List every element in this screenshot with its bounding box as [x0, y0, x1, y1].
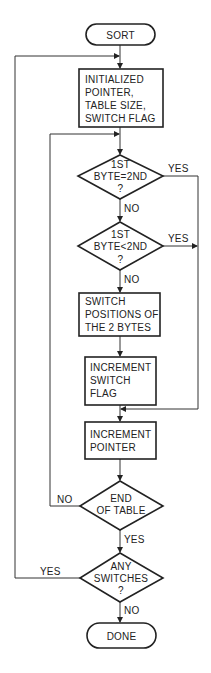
- end-label: DONE: [107, 631, 137, 642]
- end-line-2: OF TABLE: [96, 505, 145, 516]
- any-line-3: ?: [118, 585, 124, 596]
- switch-line-3: THE 2 BYTES: [85, 322, 151, 333]
- decision-end-of-table: END OF TABLE: [80, 481, 163, 530]
- flowchart: SORT INITIALIZED POINTER, TABLE SIZE, SW…: [0, 0, 211, 673]
- end-terminal: DONE: [87, 623, 156, 648]
- switch-line-1: SWITCH: [85, 296, 126, 307]
- incptr-line-1: INCREMENT: [90, 429, 151, 440]
- equal-line-3: ?: [118, 183, 124, 194]
- init-line-3: TABLE SIZE,: [85, 100, 146, 111]
- less-line-3: ?: [118, 254, 124, 265]
- equal-no-label: NO: [124, 203, 139, 214]
- start-label: SORT: [106, 30, 134, 41]
- less-yes-label: YES: [168, 233, 189, 244]
- switch-line-2: POSITIONS OF: [85, 309, 159, 320]
- end-yes-label: YES: [124, 534, 145, 545]
- any-no-label: NO: [124, 605, 139, 616]
- decision-byte-less: 1ST BYTE<2ND ?: [78, 222, 163, 270]
- equal-line-2: BYTE=2ND: [94, 171, 148, 182]
- decision-byte-equal: 1ST BYTE=2ND ?: [78, 155, 163, 199]
- incflag-line-2: SWITCH: [90, 375, 131, 386]
- incflag-line-1: INCREMENT: [90, 362, 151, 373]
- decision-any-switches: ANY SWITCHES ?: [80, 553, 163, 602]
- less-line-1: 1ST: [111, 229, 130, 240]
- equal-line-1: 1ST: [111, 159, 130, 170]
- less-line-2: BYTE<2ND: [94, 241, 148, 252]
- init-process-box: INITIALIZED POINTER, TABLE SIZE, SWITCH …: [79, 69, 163, 127]
- incptr-line-2: POINTER: [90, 442, 136, 453]
- init-line-1: INITIALIZED: [85, 74, 144, 85]
- any-yes-label: YES: [40, 566, 61, 577]
- any-line-2: SWITCHES: [94, 573, 149, 584]
- init-line-4: SWITCH FLAG: [85, 113, 156, 124]
- start-terminal: SORT: [86, 24, 155, 45]
- increment-switch-flag-box: INCREMENT SWITCH FLAG: [85, 357, 156, 405]
- incflag-line-3: FLAG: [90, 388, 117, 399]
- increment-pointer-box: INCREMENT POINTER: [85, 422, 156, 459]
- less-no-label: NO: [124, 274, 139, 285]
- end-no-label: NO: [57, 494, 72, 505]
- end-line-1: END: [110, 493, 132, 504]
- any-line-1: ANY: [110, 561, 131, 572]
- init-line-2: POINTER,: [85, 87, 134, 98]
- switch-positions-box: SWITCH POSITIONS OF THE 2 BYTES: [79, 293, 160, 336]
- equal-yes-label: YES: [168, 163, 189, 174]
